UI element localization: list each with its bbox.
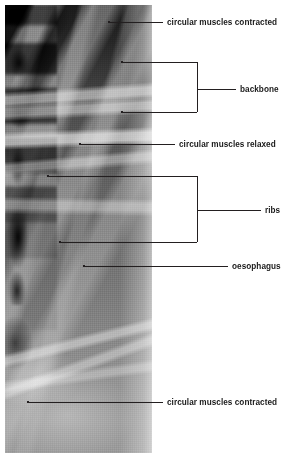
- label-ribs: ribs: [265, 206, 280, 215]
- leader-dot-relaxed: [79, 143, 81, 145]
- label-circular-muscles-relaxed: circular muscles relaxed: [179, 140, 276, 149]
- bracket-backbone-dot-top: [121, 61, 123, 63]
- label-circular-muscles-contracted-bottom: circular muscles contracted: [167, 398, 277, 407]
- label-oesophagus: oesophagus: [232, 262, 281, 271]
- leader-dot-oesophagus: [83, 265, 85, 267]
- annotation-overlay: circular muscles contracted backbone cir…: [0, 0, 292, 453]
- label-circular-muscles-contracted-top: circular muscles contracted: [167, 18, 277, 27]
- bracket-ribs-dot-bottom: [59, 241, 61, 243]
- bracket-ribs-dot-top: [47, 175, 49, 177]
- label-backbone: backbone: [240, 85, 279, 94]
- bracket-backbone-dot-bottom: [121, 111, 123, 113]
- annotated-xray-figure: circular muscles contracted backbone cir…: [0, 0, 292, 453]
- leader-dot-bottom: [27, 401, 29, 403]
- leader-dot-top: [108, 21, 110, 23]
